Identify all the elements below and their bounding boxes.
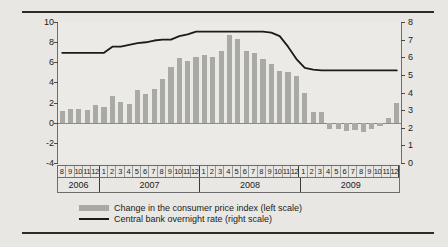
x-axis-month-cell: 9: [66, 166, 74, 177]
y-axis-left-tick-mark: [54, 163, 58, 164]
legend-label-cpi: Change in the consumer price index (left…: [114, 203, 302, 213]
x-axis-month-cell: 4: [224, 166, 232, 177]
chart-legend: Change in the consumer price index (left…: [79, 203, 379, 224]
x-axis-month-cell: 12: [91, 166, 100, 177]
y-axis-right-tick-label: 2: [408, 123, 413, 132]
x-axis-month-cell: 8: [58, 166, 66, 177]
y-axis-left-tick-mark: [54, 143, 58, 144]
x-axis-month-cell: 3: [316, 166, 324, 177]
line-series-layer: [58, 22, 401, 163]
x-axis-month-cell: 8: [357, 166, 365, 177]
x-axis-year-cell: 2009: [301, 178, 401, 192]
y-axis-left-tick-label: -4: [46, 159, 54, 168]
x-axis-month-cell: 2: [208, 166, 216, 177]
y-axis-left-tick-mark: [54, 123, 58, 124]
plot-area: 1086420-2-4 876543210: [57, 22, 402, 163]
x-axis-month-cell: 10: [274, 166, 283, 177]
x-axis-month-cell: 5: [133, 166, 141, 177]
y-axis-right-tick-mark: [401, 22, 405, 23]
x-axis-month-cell: 9: [366, 166, 374, 177]
y-axis-left-tick-mark: [54, 82, 58, 83]
x-axis-month-cell: 5: [332, 166, 340, 177]
y-axis-left-tick-label: -2: [46, 138, 54, 147]
x-axis-year-cell: 2006: [58, 178, 100, 192]
x-axis-month-cell: 3: [216, 166, 224, 177]
x-axis-month-cell: 10: [374, 166, 383, 177]
legend-item-cpi: Change in the consumer price index (left…: [79, 203, 379, 213]
y-axis-right-tick-label: 3: [408, 106, 413, 115]
y-axis-left-tick-mark: [54, 42, 58, 43]
x-axis-month-cell: 5: [233, 166, 241, 177]
y-axis-left-tick-mark: [54, 22, 58, 23]
bottom-divider-rule: [22, 232, 434, 234]
y-axis-right-tick-mark: [401, 75, 405, 76]
x-axis-year-cell: 2007: [100, 178, 200, 192]
y-axis-right-tick-mark: [401, 110, 405, 111]
x-axis-month-cell: 8: [158, 166, 166, 177]
y-axis-left-tick-label: 10: [44, 18, 54, 27]
y-axis-right-tick-mark: [401, 145, 405, 146]
x-axis-month-cell: 1: [100, 166, 108, 177]
x-axis-year-cell: 2008: [200, 178, 300, 192]
x-axis-month-cell: 6: [241, 166, 249, 177]
y-axis-right-tick-mark: [401, 57, 405, 58]
x-axis-month-labels: 8910111212345678910111212345678910111212…: [57, 165, 400, 178]
chart-figure: 1086420-2-4 876543210 891011121234567891…: [0, 0, 448, 247]
legend-label-rate: Central bank overnight rate (right scale…: [114, 214, 272, 224]
y-axis-right-tick-label: 6: [408, 53, 413, 62]
legend-item-rate: Central bank overnight rate (right scale…: [79, 214, 379, 224]
x-axis-month-cell: 7: [349, 166, 357, 177]
y-axis-left-tick-mark: [54, 103, 58, 104]
x-axis-month-cell: 7: [249, 166, 257, 177]
y-axis-right-tick-label: 0: [408, 159, 413, 168]
chart-panel: 1086420-2-4 876543210 891011121234567891…: [22, 13, 434, 232]
x-axis-month-cell: 9: [266, 166, 274, 177]
x-axis-month-cell: 1: [299, 166, 307, 177]
y-axis-right-tick-label: 4: [408, 88, 413, 97]
x-axis-month-cell: 11: [83, 166, 91, 177]
x-axis-month-cell: 12: [391, 166, 400, 177]
x-axis-month-cell: 3: [116, 166, 124, 177]
x-axis-month-cell: 12: [191, 166, 200, 177]
x-axis-month-cell: 11: [183, 166, 191, 177]
x-axis-month-cell: 2: [108, 166, 116, 177]
x-axis-month-cell: 11: [283, 166, 291, 177]
line-swatch-icon: [79, 218, 109, 220]
bar-swatch-icon: [79, 205, 109, 211]
y-axis-right-tick-mark: [401, 163, 405, 164]
y-axis-right-tick-label: 8: [408, 18, 413, 27]
y-axis-right-tick-label: 7: [408, 35, 413, 44]
y-axis-right-tick-mark: [401, 93, 405, 94]
x-axis-month-cell: 2: [308, 166, 316, 177]
x-axis-month-cell: 9: [166, 166, 174, 177]
plot-inner: [58, 22, 401, 163]
central-bank-rate-line: [62, 32, 397, 71]
x-axis-month-cell: 10: [174, 166, 183, 177]
y-axis-right-tick-label: 5: [408, 70, 413, 79]
x-axis-month-cell: 10: [75, 166, 84, 177]
x-axis-month-cell: 4: [125, 166, 133, 177]
x-axis-month-cell: 6: [141, 166, 149, 177]
y-axis-right-tick-label: 1: [408, 141, 413, 150]
x-axis-month-cell: 12: [291, 166, 300, 177]
y-axis-right-tick-mark: [401, 40, 405, 41]
x-axis-year-labels: 2006200720082009: [57, 178, 400, 193]
x-axis-month-cell: 7: [149, 166, 157, 177]
x-axis-month-cell: 8: [258, 166, 266, 177]
y-axis-left-tick-mark: [54, 62, 58, 63]
x-axis-month-cell: 4: [324, 166, 332, 177]
x-axis-month-cell: 6: [341, 166, 349, 177]
y-axis-right-tick-mark: [401, 128, 405, 129]
x-axis-month-cell: 1: [200, 166, 208, 177]
x-axis-month-cell: 11: [382, 166, 390, 177]
